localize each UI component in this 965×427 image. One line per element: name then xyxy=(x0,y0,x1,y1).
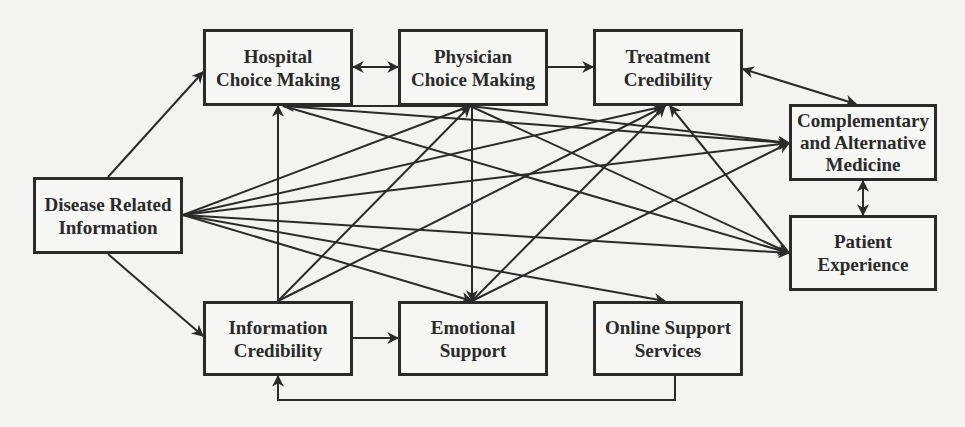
edge-treatment-to-cam xyxy=(743,69,856,104)
node-treatment-credibility: Treatment Credibility xyxy=(593,29,743,106)
node-complementary-alternative-medicine: Complementary and Alternative Medicine xyxy=(789,104,937,181)
node-label-line: Services xyxy=(635,339,701,362)
node-online-support-services: Online Support Services xyxy=(593,301,743,376)
node-label-line: Complementary xyxy=(797,110,929,132)
edge-disease-to-cam xyxy=(183,143,789,215)
edge-physician-to-cam xyxy=(470,106,789,143)
node-label-line: Physician xyxy=(434,45,512,68)
node-patient-experience: Patient Experience xyxy=(789,215,937,291)
edge-patient-to-treatment xyxy=(670,106,789,253)
edge-emotional-to-cam xyxy=(472,143,789,301)
node-label-line: Experience xyxy=(818,253,909,276)
node-label-line: Disease Related xyxy=(44,193,171,216)
node-information-credibility: Information Credibility xyxy=(203,301,353,376)
node-label-line: Emotional xyxy=(431,316,515,339)
node-disease-related-information: Disease Related Information xyxy=(33,177,183,254)
edge-disease-to-infocred xyxy=(108,254,203,336)
node-label-line: Credibility xyxy=(624,68,712,91)
node-label-line: Support xyxy=(440,339,507,362)
edge-disease-to-patient xyxy=(183,215,789,253)
node-label-line: Choice Making xyxy=(411,68,535,91)
node-label-line: Information xyxy=(228,316,327,339)
edge-disease-to-hospital xyxy=(108,72,203,177)
node-label-line: Medicine xyxy=(826,154,901,176)
edge-disease-to-treatment xyxy=(183,106,665,215)
node-emotional-support: Emotional Support xyxy=(398,301,548,376)
node-label-line: Choice Making xyxy=(216,68,340,91)
node-label-line: Treatment xyxy=(626,45,711,68)
edge-online-to-infocred xyxy=(278,376,675,400)
edge-hospital-to-patient xyxy=(283,106,789,253)
node-label-line: Patient xyxy=(834,230,892,253)
diagram-canvas: Disease Related Information Hospital Cho… xyxy=(0,0,965,427)
edge-emotional-to-treatment xyxy=(472,106,665,301)
node-label-line: Hospital xyxy=(244,45,313,68)
node-label-line: Online Support xyxy=(605,316,731,339)
node-label-line: Credibility xyxy=(234,339,322,362)
node-label-line: Information xyxy=(58,216,157,239)
node-hospital-choice-making: Hospital Choice Making xyxy=(203,29,353,106)
node-label-line: and Alternative xyxy=(800,132,926,154)
node-physician-choice-making: Physician Choice Making xyxy=(398,29,548,106)
